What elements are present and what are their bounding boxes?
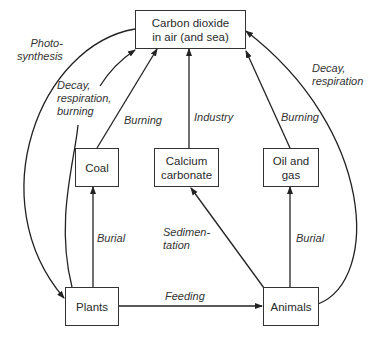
label-oil-burning: Burning: [281, 111, 319, 124]
node-oil-and-gas: Oil and gas: [263, 148, 319, 187]
label-animals-decay: Decay, respiration: [312, 62, 363, 88]
label-industry: Industry: [194, 111, 233, 124]
node-carbon-dioxide: Carbon dioxide in air (and sea): [135, 10, 246, 49]
node-plants: Plants: [65, 287, 119, 326]
label-animals-burial: Burial: [296, 232, 324, 245]
label-plants-decay: Decay, respiration, burning: [57, 79, 111, 118]
label-feeding: Feeding: [165, 290, 205, 303]
label-coal-burning: Burning: [124, 114, 162, 127]
node-calcium-carbonate: Calcium carbonate: [154, 148, 219, 187]
label-sedimentation: Sedimen- tation: [163, 226, 210, 252]
edge-oil-burning: [246, 51, 290, 148]
label-plants-burial: Burial: [97, 232, 125, 245]
node-animals: Animals: [263, 287, 319, 326]
node-coal: Coal: [75, 148, 119, 187]
label-photosynthesis: Photo- synthesis: [17, 37, 63, 63]
